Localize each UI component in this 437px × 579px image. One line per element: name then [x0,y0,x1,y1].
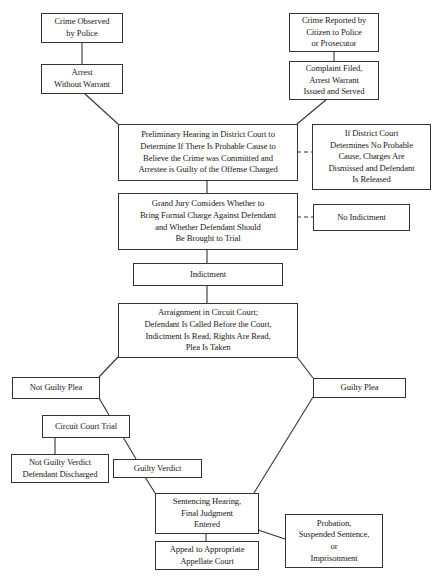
node-no-probable-cause: If District Court Determines No Probable… [312,124,431,190]
node-sentencing-hearing: Sentencing Hearing, Final Judgment Enter… [155,493,259,534]
node-sentence-outcomes: Probation, Suspended Sentence, or Impris… [285,514,383,568]
node-guilty-plea: Guilty Plea [313,378,406,398]
node-grand-jury: Grand Jury Considers Whether to Bring Fo… [118,193,298,250]
node-crime-reported: Crime Reported by Citizen to Police or P… [289,13,379,52]
node-preliminary-hearing: Preliminary Hearing in District Court to… [118,124,298,181]
node-guilty-verdict: Guilty Verdict [113,459,202,478]
node-circuit-court-trial: Circuit Court Trial [42,415,130,438]
node-arrest-without-warrant: Arrest Without Warrant [41,64,123,94]
node-appeal: Appeal to Appropriate Appellate Court [155,541,259,570]
edge-sentencing-to-outcomes [258,530,285,539]
edge-complaint-to-preliminary [297,99,327,124]
node-arraignment: Arraignment in Circuit Court; Defendant … [118,303,298,358]
node-indictment: Indictment [133,263,283,286]
node-not-guilty-verdict: Not Guilty Verdict Defendant Discharged [11,454,109,483]
edge-guiltyverdict-to-sentencing [145,477,155,493]
node-complaint-filed: Complaint Filed, Arrest Warrant Issued a… [289,61,379,100]
edge-arraignment-to-notguiltyplea [99,357,118,377]
node-no-indictment: No Indictment [313,204,410,231]
edge-arrest-to-preliminary [84,93,118,124]
edge-arraignment-to-guiltyplea [297,357,313,378]
edge-trial-to-guiltyverdict [123,437,136,459]
edge-notguiltyplea-to-trial [99,398,109,415]
node-crime-observed: Crime Observed by Police [41,13,123,43]
node-not-guilty-plea: Not Guilty Plea [12,377,100,399]
edge-guiltyplea-to-sentencing [254,397,313,493]
